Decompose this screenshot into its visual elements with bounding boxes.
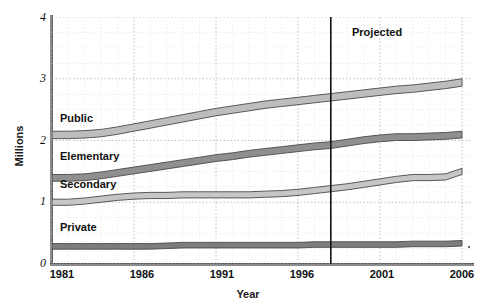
chart-container: Millions 4 3 2 1 0 Projected Public Elem… bbox=[0, 0, 496, 308]
y-axis-ticks: 4 3 2 1 0 bbox=[14, 0, 46, 308]
series-label-secondary: Secondary bbox=[60, 178, 116, 190]
x-tick-2006: 2006 bbox=[432, 268, 492, 280]
series-label-elementary: Elementary bbox=[60, 150, 119, 162]
plot-area bbox=[52, 17, 472, 264]
projected-label: Projected bbox=[352, 26, 402, 38]
series-band-private bbox=[52, 241, 462, 250]
x-tick-1986: 1986 bbox=[112, 268, 172, 280]
x-axis-title: Year bbox=[0, 288, 496, 300]
y-tick-4: 4 bbox=[16, 10, 46, 25]
chart-svg bbox=[52, 17, 472, 264]
x-tick-1991: 1991 bbox=[192, 268, 252, 280]
series-label-public: Public bbox=[60, 112, 93, 124]
x-tick-2001: 2001 bbox=[352, 268, 412, 280]
x-axis-line bbox=[50, 264, 474, 266]
x-tick-1996: 1996 bbox=[272, 268, 332, 280]
series-label-private: Private bbox=[60, 221, 97, 233]
y-tick-1: 1 bbox=[16, 194, 46, 209]
x-tick-1981: 1981 bbox=[32, 268, 92, 280]
series-band-public bbox=[52, 79, 462, 139]
y-tick-2: 2 bbox=[16, 133, 46, 148]
y-tick-3: 3 bbox=[16, 71, 46, 86]
stray-mark bbox=[468, 246, 470, 248]
